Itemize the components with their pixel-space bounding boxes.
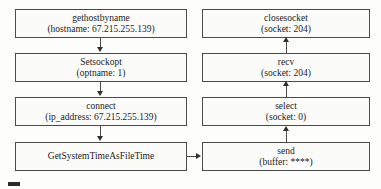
node-subtitle: (socket: 0) — [266, 112, 306, 123]
node-title: connect — [86, 101, 116, 112]
node-title: GetSystemTimeAsFileTime — [48, 151, 154, 162]
arrowhead-up-icon — [283, 37, 289, 42]
node-title: recv — [278, 57, 294, 68]
caption-strip — [0, 180, 381, 189]
caption-marker — [8, 182, 20, 186]
node-subtitle: (ip_address: 67.215.255.139) — [45, 112, 156, 123]
edge-select-to-recv — [286, 86, 287, 97]
node-subtitle: (optname: 1) — [77, 68, 126, 79]
node-setsockopt[interactable]: Setsockopt (optname: 1) — [15, 53, 187, 82]
edge-send-to-select — [286, 131, 287, 142]
node-title: gethostbyname — [72, 13, 130, 24]
node-closesocket[interactable]: closesocket (socket: 204) — [202, 9, 370, 38]
arrowhead-down-icon — [97, 136, 103, 141]
node-gethostbyname[interactable]: gethostbyname (hostname: 67.215.255.139) — [15, 9, 187, 38]
node-subtitle: (socket: 204) — [261, 24, 311, 35]
arrowhead-up-icon — [283, 81, 289, 86]
arrowhead-down-icon — [97, 91, 103, 96]
node-title: closesocket — [264, 13, 308, 24]
node-subtitle: (socket: 204) — [261, 68, 311, 79]
node-getsystemtimeasfiletime[interactable]: GetSystemTimeAsFileTime — [15, 142, 187, 171]
diagram-canvas: gethostbyname (hostname: 67.215.255.139)… — [0, 0, 381, 189]
arrowhead-right-icon — [196, 153, 201, 159]
edge-recv-to-closesocket — [286, 42, 287, 53]
node-title: send — [277, 146, 294, 157]
arrowhead-down-icon — [97, 47, 103, 52]
node-recv[interactable]: recv (socket: 204) — [202, 53, 370, 82]
node-subtitle: (buffer: ****) — [259, 157, 312, 168]
node-connect[interactable]: connect (ip_address: 67.215.255.139) — [15, 97, 187, 126]
node-title: select — [275, 101, 297, 112]
node-select[interactable]: select (socket: 0) — [202, 97, 370, 126]
node-send[interactable]: send (buffer: ****) — [202, 142, 370, 171]
arrowhead-up-icon — [283, 126, 289, 131]
node-subtitle: (hostname: 67.215.255.139) — [47, 24, 154, 35]
node-title: Setsockopt — [80, 57, 122, 68]
